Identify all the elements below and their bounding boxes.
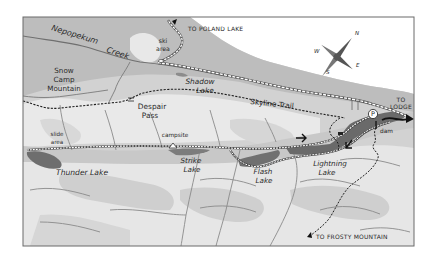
label-strike-lake: Lake bbox=[184, 165, 202, 174]
compass-w: W bbox=[314, 48, 320, 54]
label-campsite: campsite bbox=[162, 132, 189, 139]
label-lightning-lake: Lake bbox=[319, 168, 337, 177]
label-shadow: Shadow bbox=[185, 77, 215, 86]
label-mountain: Mountain bbox=[47, 84, 80, 93]
label-thunder-lake: Thunder Lake bbox=[56, 168, 108, 177]
label-ski: ski bbox=[159, 37, 168, 44]
compass-e: E bbox=[356, 62, 360, 68]
parking-icon: P bbox=[368, 109, 377, 118]
svg-text:P: P bbox=[371, 110, 375, 118]
compass-n: N bbox=[355, 30, 359, 36]
label-to: TO bbox=[396, 96, 406, 103]
label-lightning: Lightning bbox=[313, 159, 347, 168]
label-flash: Flash bbox=[254, 167, 273, 176]
label-dam: dam bbox=[380, 128, 393, 134]
label-strike: Strike bbox=[181, 156, 202, 165]
label-flash-lake: Lake bbox=[256, 176, 274, 185]
label-despair: Despair bbox=[138, 102, 167, 111]
label-pass: Pass bbox=[142, 111, 159, 120]
label-snow: Snow bbox=[54, 66, 74, 75]
compass-s: S bbox=[326, 69, 330, 75]
label-slide-area: area bbox=[51, 139, 63, 145]
junction-marker bbox=[338, 132, 343, 135]
label-shadow-lake: Lake bbox=[196, 86, 214, 95]
label-ski-area: area bbox=[156, 45, 170, 52]
label-camp: Camp bbox=[54, 75, 75, 84]
trail-map: P N E S W Nepopekum Creek ski area TO PO… bbox=[0, 0, 437, 259]
ski-lodge-marker bbox=[159, 60, 164, 63]
label-lodge: LODGE bbox=[390, 103, 412, 110]
label-to-frosty-mountain: TO FROSTY MOUNTAIN bbox=[315, 233, 388, 240]
label-slide: slide bbox=[50, 131, 64, 137]
label-to-poland-lake: TO POLAND LAKE bbox=[187, 25, 243, 32]
